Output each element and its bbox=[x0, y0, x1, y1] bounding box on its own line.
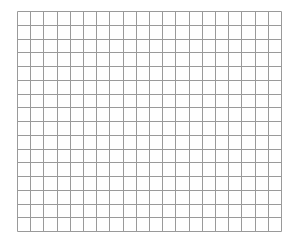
grid-lines bbox=[18, 12, 282, 232]
grid-diagram bbox=[0, 0, 298, 245]
